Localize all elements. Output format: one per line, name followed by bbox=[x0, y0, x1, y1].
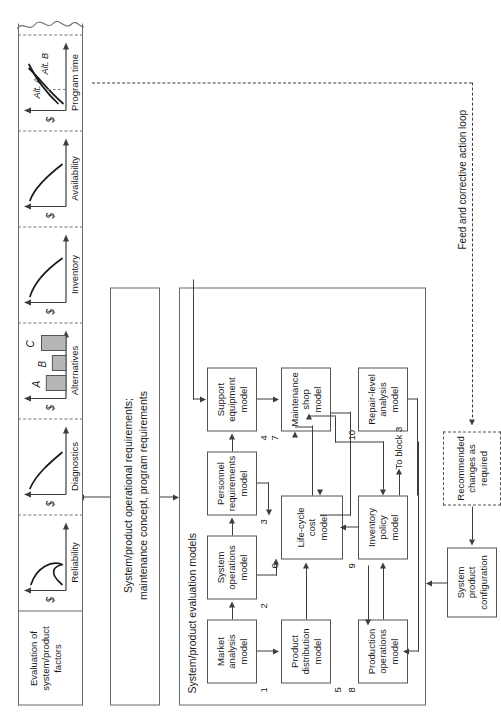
chart-inventory-xlabel: Inventory bbox=[69, 234, 80, 314]
block-system-operations-model[interactable]: System operations model bbox=[207, 535, 257, 599]
edge-6-to-7-head bbox=[292, 431, 298, 437]
edge-4-to-7-head bbox=[273, 397, 279, 403]
chart-reliability-xlabel: Reliability bbox=[69, 522, 80, 602]
block-market-analysis-model[interactable]: Market analysis model bbox=[207, 619, 257, 683]
bar-label-c: C bbox=[25, 340, 36, 347]
edge-1-to-5-head bbox=[273, 649, 279, 655]
edge-2-to-3-head bbox=[229, 517, 235, 523]
block-maintenance-shop-model[interactable]: Maintenance shop model bbox=[281, 367, 331, 431]
block-number-8: 8 bbox=[346, 687, 357, 692]
chart-alternatives-ylabel: $ bbox=[45, 404, 56, 410]
arrow-changes-to-config bbox=[472, 506, 473, 539]
chart-diagnostics-xlabel: Diagnostics bbox=[69, 426, 80, 506]
top-rail bbox=[193, 279, 194, 399]
block-number-4: 4 bbox=[258, 435, 269, 440]
edge-7-to-6-v2 bbox=[320, 514, 351, 515]
block-product-distribution-model[interactable]: Product distribution model bbox=[281, 619, 331, 683]
eval-panel-top-to-torn bbox=[18, 28, 19, 34]
block-production-operations-model[interactable]: Production operations model bbox=[358, 619, 408, 683]
block-recommended-changes-label: Recommended changes as required bbox=[455, 434, 489, 502]
block-number-9: 9 bbox=[346, 563, 357, 568]
edge-7-to-6-v bbox=[331, 412, 351, 413]
block-recommended-changes[interactable]: Recommended changes as required bbox=[443, 431, 501, 505]
block-life-cycle-cost-model[interactable]: Life-cycle cost model bbox=[281, 495, 343, 559]
series-label-alt-a: Alt. A bbox=[32, 77, 42, 98]
edge-5-to-6-head bbox=[303, 562, 309, 568]
edge-8-to-5-head bbox=[365, 619, 371, 625]
edge-10-to-9-head bbox=[380, 489, 386, 495]
edge-9-to-6-head bbox=[340, 525, 346, 531]
chart-cell-diagnostics: $ Diagnostics bbox=[18, 418, 83, 514]
edge-2-to-6-v bbox=[257, 574, 277, 575]
models-panel-title: System/product evaluation models bbox=[186, 533, 198, 694]
block-product-distribution-label: Product distribution model bbox=[289, 626, 323, 676]
block-production-operations-label: Production operations model bbox=[366, 626, 400, 675]
bottom-rail-head bbox=[403, 649, 409, 655]
block-number-10: 10 bbox=[346, 429, 357, 440]
evaluation-panel-title-line1: Evaluation of bbox=[28, 619, 39, 697]
chart-program-time-xlabel: Program time bbox=[69, 42, 80, 122]
arrow-requirements-to-models-stem bbox=[160, 496, 174, 497]
chart-program-time-ylabel: $ bbox=[45, 116, 56, 122]
chart-cell-reliability: $ Reliability bbox=[18, 514, 83, 610]
block-number-2: 2 bbox=[258, 603, 269, 608]
edge-3-to-6-head bbox=[266, 509, 272, 515]
bar-label-a: A bbox=[31, 380, 42, 387]
chart-diagnostics-ylabel: $ bbox=[45, 500, 56, 506]
chart-cell-availability: $ Availability bbox=[18, 130, 83, 226]
bottom-rail-left bbox=[408, 650, 419, 651]
edge-2-to-3 bbox=[232, 522, 233, 535]
series-label-alt-b: Alt. B bbox=[40, 52, 50, 74]
block-system-product-configuration-label: System product configuration bbox=[455, 553, 489, 611]
edge-4-to-7 bbox=[257, 398, 274, 399]
edge-3-to-6-h bbox=[268, 482, 269, 509]
to-block-3-label: To block 3 bbox=[393, 426, 404, 469]
chart-availability-xlabel: Availability bbox=[69, 138, 80, 218]
chart-alternatives-xlabel: Alternatives bbox=[69, 330, 80, 410]
eval-panel-bottom-to-torn bbox=[82, 28, 83, 34]
chart-cell-program-time: $ Alt. A Alt. B Program time bbox=[18, 34, 83, 130]
requirements-text-line1: System/product operational requirements; bbox=[122, 286, 134, 704]
edge-3-to-4 bbox=[232, 438, 233, 451]
block-number-5: 5 bbox=[332, 687, 343, 692]
arrow-changes-to-config-head bbox=[469, 539, 475, 545]
feedback-loop-vertical bbox=[92, 82, 472, 83]
edge-2-to-6-head bbox=[273, 558, 279, 564]
chart-cell-alternatives: $ A B C Alternatives bbox=[18, 322, 83, 418]
block-number-3: 3 bbox=[258, 519, 269, 524]
edge-10-to-9-v3 bbox=[309, 415, 336, 416]
block-repair-level-analysis-label: Repair-level analysis model bbox=[366, 372, 400, 427]
arrow-config-to-models-stem bbox=[431, 582, 448, 583]
edge-7-to-6-head bbox=[317, 489, 323, 495]
edge-10-to-9-h2 bbox=[383, 441, 384, 489]
block-system-product-configuration[interactable]: System product configuration bbox=[447, 547, 497, 617]
block-support-equipment-model[interactable]: Support equipment model bbox=[207, 367, 257, 431]
block-life-cycle-cost-label: Life-cycle cost model bbox=[295, 505, 329, 549]
edge-10-to-9-h3 bbox=[335, 416, 336, 442]
edge-8-to-9-head bbox=[380, 562, 386, 568]
block-number-1: 1 bbox=[258, 687, 269, 692]
edge-1-to-2-head bbox=[229, 601, 235, 607]
block-repair-level-analysis-model[interactable]: Repair-level analysis model bbox=[358, 367, 408, 431]
edge-9-to-6 bbox=[345, 526, 359, 527]
arrow-config-to-models-head bbox=[426, 581, 432, 587]
bottom-rail bbox=[418, 441, 419, 651]
edge-8-to-5 bbox=[368, 565, 369, 619]
block-inventory-policy-model[interactable]: Inventory policy model bbox=[358, 495, 408, 559]
chart-cell-inventory: $ Inventory bbox=[18, 226, 83, 322]
evaluation-panel-title-line2: system/product bbox=[40, 619, 51, 697]
feedback-loop-head bbox=[469, 419, 475, 425]
edge-6-to-7-v bbox=[295, 426, 313, 427]
chart-inventory-ylabel: $ bbox=[45, 308, 56, 314]
block-support-equipment-label: Support equipment model bbox=[215, 375, 249, 423]
edge-7-to-6-h bbox=[350, 411, 351, 515]
requirements-text-line2: maintenance concept, program requirement… bbox=[137, 286, 149, 704]
edge-5-to-6 bbox=[306, 567, 307, 619]
feedback-loop-horizontal bbox=[472, 82, 473, 417]
block-number-7: 7 bbox=[269, 435, 280, 440]
block-personnel-requirements-label: Personnel requirements model bbox=[215, 453, 249, 512]
torn-edge-icon bbox=[17, 14, 84, 32]
block-personnel-requirements-model[interactable]: Personnel requirements model bbox=[207, 451, 257, 515]
chart-availability-ylabel: $ bbox=[45, 212, 56, 218]
